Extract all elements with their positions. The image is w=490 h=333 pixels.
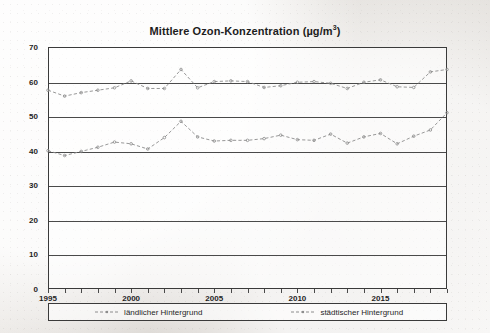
data-point	[113, 86, 116, 89]
x-tick-2005	[214, 289, 215, 293]
x-tick-2000	[131, 289, 132, 293]
data-point	[196, 86, 199, 89]
y-tick-label-10: 10	[8, 250, 38, 259]
x-tick-2003	[181, 289, 182, 293]
x-tick-2017	[414, 289, 415, 293]
y-tick-label-0: 0	[8, 285, 38, 294]
data-point	[396, 85, 399, 88]
chart-title: Mittlere Ozon-Konzentration (µg/m3)	[0, 24, 490, 37]
data-point	[163, 136, 166, 139]
x-tick-2012	[331, 289, 332, 293]
x-tick-2018	[430, 289, 431, 293]
data-point	[412, 86, 415, 89]
data-point	[230, 139, 233, 142]
data-point	[346, 142, 349, 145]
legend-line-swatch-staedtischer	[290, 308, 316, 316]
x-tick-label-2015: 2015	[372, 294, 390, 303]
series-layer	[48, 47, 447, 289]
legend-item-laendlicher: ländlicher Hintergrund	[49, 308, 248, 317]
legend-item-staedtischer: städtischer Hintergrund	[248, 308, 447, 317]
x-tick-2009	[281, 289, 282, 293]
data-point	[429, 129, 432, 132]
y-tick-label-20: 20	[8, 215, 38, 224]
x-tick-2019	[447, 289, 448, 293]
x-tick-2010	[297, 289, 298, 293]
x-tick-label-2005: 2005	[205, 294, 223, 303]
data-point	[246, 139, 249, 142]
x-tick-2007	[248, 289, 249, 293]
legend-line-swatch-laendlicher	[94, 308, 120, 316]
data-point	[313, 80, 316, 83]
data-point	[130, 80, 133, 83]
y-tick-label-30: 30	[8, 181, 38, 190]
data-point	[296, 81, 299, 84]
series-staedtischer	[47, 68, 449, 97]
data-point	[213, 80, 216, 83]
data-point	[329, 82, 332, 85]
chart-title-tail: )	[337, 25, 341, 37]
x-tick-2001	[148, 289, 149, 293]
x-tick-1998	[98, 289, 99, 293]
x-tick-label-1995: 1995	[39, 294, 57, 303]
data-point	[130, 143, 133, 146]
x-tick-label-2010: 2010	[288, 294, 306, 303]
legend-label-staedtischer: städtischer Hintergrund	[320, 308, 403, 317]
y-tick-label-40: 40	[8, 146, 38, 155]
x-tick-label-2000: 2000	[122, 294, 140, 303]
chart-legend: ländlicher Hintergrund städtischer Hinte…	[48, 303, 447, 321]
data-point	[279, 134, 282, 137]
series-line-laendlicher	[48, 113, 447, 156]
x-tick-2016	[397, 289, 398, 293]
y-tick-label-70: 70	[8, 43, 38, 52]
chart-figure: Mittlere Ozon-Konzentration (µg/m3) 7060…	[0, 0, 490, 333]
x-tick-1999	[115, 289, 116, 293]
x-tick-2004	[198, 289, 199, 293]
y-tick-label-60: 60	[8, 77, 38, 86]
series-laendlicher	[47, 111, 449, 156]
chart-title-main: Mittlere Ozon-Konzentration (µg/m	[150, 25, 333, 37]
data-point	[263, 137, 266, 140]
x-tick-2013	[347, 289, 348, 293]
x-tick-2015	[381, 289, 382, 293]
data-point	[47, 149, 50, 152]
y-tick-label-50: 50	[8, 112, 38, 121]
x-tick-1997	[81, 289, 82, 293]
legend-label-laendlicher: ländlicher Hintergrund	[124, 308, 202, 317]
x-tick-2014	[364, 289, 365, 293]
x-tick-2006	[231, 289, 232, 293]
x-tick-2008	[264, 289, 265, 293]
x-tick-2011	[314, 289, 315, 293]
x-tick-2002	[164, 289, 165, 293]
x-tick-1995	[48, 289, 49, 293]
data-point	[113, 141, 116, 144]
x-tick-1996	[65, 289, 66, 293]
